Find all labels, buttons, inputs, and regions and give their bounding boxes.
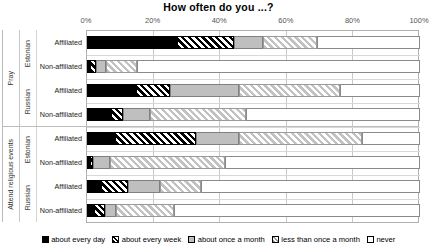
row-label-0: Affiliated (36, 30, 84, 54)
bar-segment-about-once-a-month (123, 108, 150, 121)
bar-segment-less-than-once-a-month (110, 156, 225, 169)
x-tick-label-40: 40% (212, 16, 227, 25)
x-axis-tick-labels: 0%20%40%60%80%100% (0, 16, 437, 28)
chart-legend: about every dayabout every weekabout onc… (0, 232, 437, 246)
bar-segment-about-once-a-month (128, 180, 160, 193)
bar-segment-about-every-day (87, 108, 111, 121)
stacked-bar-3 (87, 108, 420, 121)
legend-item-3: less than once a month (272, 235, 360, 244)
row-label-6: Affiliated (36, 174, 84, 198)
bar-segment-never (137, 60, 420, 73)
stacked-bar-5 (87, 156, 420, 169)
bar-segment-never (201, 180, 420, 193)
legend-item-4: never (367, 235, 396, 244)
bar-segment-about-every-day (87, 36, 177, 49)
bar-segment-about-once-a-month (196, 132, 238, 145)
row-label-7: Non-affiliated (36, 198, 84, 222)
bar-segment-about-every-week (111, 108, 123, 121)
row-label-2: Affiliated (36, 78, 84, 102)
subgroup-label-1-0: Estonian (19, 126, 35, 174)
table-row (87, 199, 420, 223)
bar-segment-never (362, 132, 420, 145)
bar-segment-about-once-a-month (234, 36, 264, 49)
legend-label: about once a month (198, 235, 265, 244)
x-tick-label-60: 60% (278, 16, 293, 25)
stacked-bar-0 (87, 36, 420, 49)
subgroup-label-0-0: Estonian (19, 30, 35, 78)
legend-swatch-icon (272, 236, 279, 243)
bar-segment-about-every-week (115, 132, 196, 145)
stacked-bar-1 (87, 60, 420, 73)
group-label-text: Attend religious events (7, 139, 14, 210)
legend-swatch-icon (42, 236, 49, 243)
stacked-bar-6 (87, 180, 420, 193)
chart-root: How often do you ...? 0%20%40%60%80%100%… (0, 0, 437, 252)
bar-segment-about-every-week (101, 180, 127, 193)
x-tick-label-100: 100% (409, 16, 428, 25)
subgroup-label-text: Russian (24, 89, 31, 114)
table-row (87, 127, 420, 151)
table-row (87, 175, 420, 199)
bar-segment-about-once-a-month (105, 204, 116, 217)
bar-segment-never (225, 156, 420, 169)
bar-segment-about-once-a-month (96, 60, 106, 73)
bar-segment-about-every-week (136, 84, 169, 97)
table-row (87, 79, 420, 103)
x-tick-label-20: 20% (145, 16, 160, 25)
table-row (87, 55, 420, 79)
bar-segment-about-every-week (94, 204, 106, 217)
legend-label: about every day (51, 235, 105, 244)
bar-segment-less-than-once-a-month (116, 204, 173, 217)
bar-segment-about-once-a-month (170, 84, 240, 97)
bar-segment-about-every-week (177, 36, 234, 49)
bar-segment-never (340, 84, 420, 97)
table-row (87, 103, 420, 127)
legend-swatch-icon (188, 236, 195, 243)
row-label-5: Non-affiliated (36, 150, 84, 174)
stacked-bar-2 (87, 84, 420, 97)
row-label-3: Non-affiliated (36, 102, 84, 126)
chart-title: How often do you ...? (0, 1, 437, 13)
legend-swatch-icon (112, 236, 119, 243)
legend-item-2: about once a month (188, 235, 265, 244)
subgroup-label-text: Estonian (24, 136, 31, 163)
bar-segment-less-than-once-a-month (239, 132, 362, 145)
subgroup-label-0-1: Russian (19, 78, 35, 126)
group-label-text: Pray (7, 71, 14, 85)
bar-segment-about-every-day (87, 204, 94, 217)
legend-item-1: about every week (112, 235, 181, 244)
subgroup-label-text: Estonian (24, 40, 31, 67)
bar-segment-less-than-once-a-month (263, 36, 316, 49)
group-separator (2, 126, 419, 127)
bar-segment-never (246, 108, 420, 121)
legend-label: never (376, 235, 395, 244)
bar-segment-less-than-once-a-month (106, 60, 137, 73)
subgroup-label-text: Russian (24, 185, 31, 210)
bar-segment-about-once-a-month (93, 156, 110, 169)
stacked-bar-7 (87, 204, 420, 217)
legend-swatch-icon (367, 236, 374, 243)
group-label-0: Pray (2, 30, 17, 126)
legend-item-0: about every day (42, 235, 106, 244)
bar-segment-about-every-day (87, 132, 115, 145)
bar-segment-about-every-day (87, 84, 136, 97)
legend-label: less than once a month (281, 235, 360, 244)
bar-segment-less-than-once-a-month (160, 180, 202, 193)
x-tick-label-80: 80% (345, 16, 360, 25)
bar-segment-less-than-once-a-month (239, 84, 340, 97)
bar-segment-never (317, 36, 420, 49)
group-label-1: Attend religious events (2, 126, 17, 222)
row-label-1: Non-affiliated (36, 54, 84, 78)
subgroup-label-1-1: Russian (19, 174, 35, 222)
row-label-4: Affiliated (36, 126, 84, 150)
legend-label: about every week (122, 235, 182, 244)
x-tick-label-0: 0% (81, 16, 92, 25)
bar-segment-less-than-once-a-month (150, 108, 247, 121)
table-row (87, 31, 420, 55)
stacked-bar-4 (87, 132, 420, 145)
bar-segment-never (174, 204, 420, 217)
bar-segment-about-every-day (87, 180, 101, 193)
table-row (87, 151, 420, 175)
